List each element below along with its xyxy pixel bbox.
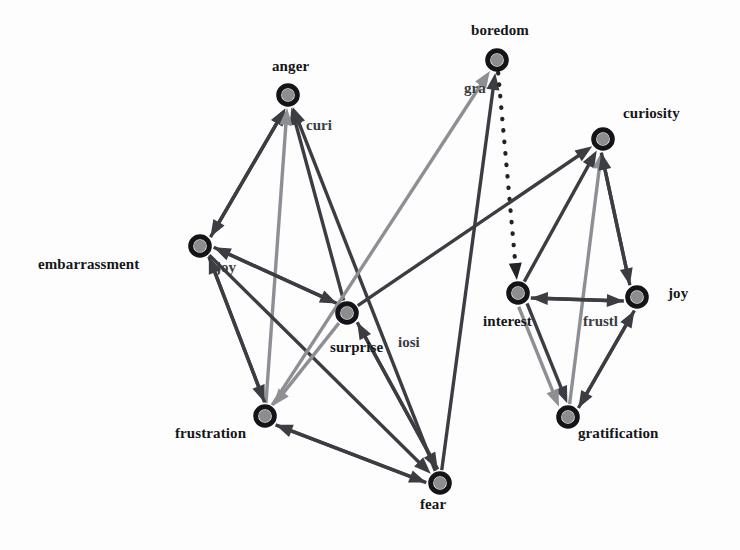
graph-edge-arrowhead <box>408 470 426 482</box>
node-core <box>491 54 503 66</box>
graph-edge <box>570 162 600 404</box>
graph-node-embarrassment[interactable] <box>191 237 210 256</box>
graph-edge <box>524 160 591 282</box>
node-label-fear: fear <box>420 496 446 513</box>
graph-edge-arrowhead <box>357 322 371 340</box>
graph-edge <box>276 425 417 479</box>
graph-node-joy_right[interactable] <box>628 288 647 307</box>
graph-node-boredom[interactable] <box>488 51 507 70</box>
graph-node-anger[interactable] <box>279 86 298 105</box>
overlay-label-gra_clipped: gra <box>464 80 486 97</box>
graph-edge <box>223 252 337 304</box>
graph-svg <box>0 0 740 550</box>
node-label-joy_right: joy <box>668 285 688 302</box>
graph-edge <box>358 152 584 305</box>
graph-edge <box>578 320 629 408</box>
graph-edge <box>210 118 280 237</box>
graph-edge <box>213 266 265 402</box>
graph-edge <box>442 83 494 470</box>
node-core <box>512 287 524 299</box>
node-core <box>434 477 446 489</box>
node-core <box>341 307 353 319</box>
graph-edge-arrowhead <box>509 263 522 281</box>
graph-node-curiosity[interactable] <box>594 130 613 149</box>
node-core <box>259 410 271 422</box>
graph-edge <box>294 118 343 301</box>
node-core <box>194 240 206 252</box>
graph-node-frustration_left[interactable] <box>256 407 275 426</box>
node-core <box>282 89 294 101</box>
node-label-frustration_left: frustration <box>175 425 246 442</box>
graph-node-interest[interactable] <box>509 284 528 303</box>
overlay-label-iosi_clipped: iosi <box>398 334 420 351</box>
overlay-label-joy_clipped: joy <box>216 259 236 276</box>
node-label-boredom: boredom <box>471 22 529 39</box>
node-core <box>562 411 574 423</box>
graph-edge-arrowhead <box>620 311 634 329</box>
graph-edge <box>601 153 627 275</box>
node-core <box>631 291 643 303</box>
graph-edge-arrowhead <box>607 294 624 307</box>
graph-edge <box>266 118 286 403</box>
graph-node-gratification[interactable] <box>559 408 578 427</box>
overlay-label-curi_clipped: curi <box>306 117 332 134</box>
node-label-anger: anger <box>272 58 309 75</box>
node-core <box>597 133 609 145</box>
node-label-interest: interest <box>483 313 532 330</box>
overlay-label-frustl_clipped: frustl <box>583 313 618 330</box>
node-label-gratification: gratification <box>578 425 658 442</box>
graph-edge <box>498 73 516 271</box>
graph-edge-arrowhead <box>547 388 559 406</box>
node-label-curiosity: curiosity <box>623 105 680 122</box>
graph-edge-arrowhead <box>293 107 305 125</box>
graph-edge <box>527 303 563 393</box>
graph-node-fear[interactable] <box>431 474 450 493</box>
node-label-embarrassment: embarrassment <box>38 256 139 273</box>
graph-node-surprise[interactable] <box>338 304 357 323</box>
node-label-surprise: surprise <box>330 339 383 356</box>
diagram-canvas: angerboredomcuriosityembarrassmentsurpri… <box>0 0 740 550</box>
